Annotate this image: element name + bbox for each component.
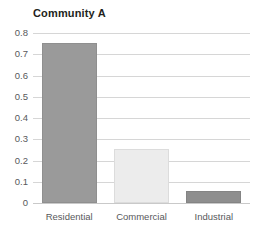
y-axis-tick-label: 0.8 (0, 28, 28, 38)
y-axis-tick-label: 0.4 (0, 113, 28, 123)
x-axis-tick-label: Residential (33, 211, 105, 223)
gridline (33, 203, 250, 204)
x-axis-tick-label: Commercial (105, 211, 177, 223)
y-axis-tick-label: 0.1 (0, 177, 28, 187)
bar-industrial (186, 191, 241, 203)
y-axis-tick-label: 0.7 (0, 49, 28, 59)
y-axis-tick-label: 0.3 (0, 134, 28, 144)
bar-residential (42, 43, 97, 203)
y-axis-tick-label: 0 (0, 198, 28, 208)
x-axis: ResidentialCommercialIndustrial (0, 211, 265, 231)
bar-commercial (114, 149, 169, 203)
y-axis-tick-label: 0.6 (0, 71, 28, 81)
chart-title: Community A (33, 7, 106, 19)
y-axis-tick-label: 0.2 (0, 156, 28, 166)
bar-chart: Community A 00.10.20.30.40.50.60.70.8 Re… (0, 0, 265, 243)
y-axis-tick-label: 0.5 (0, 92, 28, 102)
plot-area (33, 33, 250, 203)
y-axis: 00.10.20.30.40.50.60.70.8 (0, 0, 28, 243)
gridline (33, 33, 250, 34)
x-axis-tick-label: Industrial (178, 211, 250, 223)
